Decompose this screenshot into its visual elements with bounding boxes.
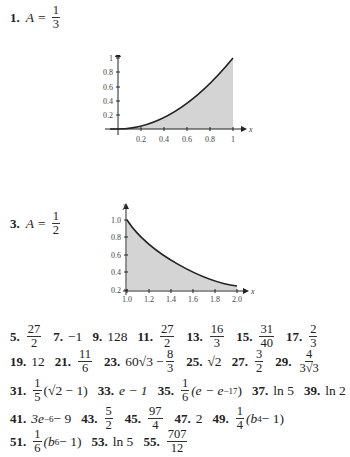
svg-text:1.6: 1.6 (188, 295, 198, 304)
svg-text:1.4: 1.4 (166, 295, 176, 304)
svg-text:0.6: 0.6 (103, 83, 113, 92)
graph-x-squared: 0.20.40.60.81 0.20.40.60.81 x (100, 55, 260, 185)
svg-text:x: x (250, 287, 255, 296)
svg-text:0.4: 0.4 (111, 268, 121, 277)
svg-text:0.2: 0.2 (103, 111, 113, 120)
svg-text:1: 1 (109, 55, 113, 63)
svg-text:x: x (248, 125, 253, 134)
answers-row-2: 19.12 21.116 23.60√3 −83 25.√2 27.32 29.… (10, 348, 332, 375)
fraction: 13 (52, 4, 60, 31)
svg-text:1.0: 1.0 (111, 216, 121, 225)
svg-text:0.4: 0.4 (103, 97, 113, 106)
fraction: 12 (52, 210, 60, 237)
problem-3-answer: 3. A = 12 (10, 210, 62, 237)
area-variable: A (26, 10, 34, 26)
svg-text:0.8: 0.8 (111, 233, 121, 242)
area-variable: A (26, 216, 34, 232)
svg-text:0.4: 0.4 (159, 135, 169, 144)
svg-text:2.0: 2.0 (232, 295, 242, 304)
svg-text:1.2: 1.2 (144, 295, 154, 304)
problem-number: 1. (10, 10, 20, 26)
svg-text:1.8: 1.8 (210, 295, 220, 304)
svg-text:1: 1 (231, 135, 235, 144)
svg-text:0.8: 0.8 (103, 68, 113, 77)
equals-sign: = (38, 10, 46, 26)
svg-text:0.6: 0.6 (182, 135, 192, 144)
svg-text:0.6: 0.6 (111, 251, 121, 260)
svg-text:y: y (122, 201, 127, 210)
problem-1-answer: 1. A = 13 (10, 4, 62, 31)
answers-row-1: 5.272 7.−1 9.128 11.272 13.163 15.3140 1… (10, 323, 329, 350)
svg-text:0.2: 0.2 (136, 135, 146, 144)
answers-row-3: 31.15(√2 − 1) 33.e − 1 35.16(e − e−17) 3… (10, 377, 350, 404)
graph-inverse-square: 1.01.21.41.61.82.0 0.20.40.60.81.0 y x (95, 200, 265, 305)
svg-text:0.2: 0.2 (111, 286, 121, 295)
svg-text:0.8: 0.8 (205, 135, 215, 144)
equals-sign: = (38, 216, 46, 232)
svg-text:1.0: 1.0 (122, 295, 132, 304)
problem-number: 3. (10, 216, 20, 232)
answers-row-5: 51.16(b6 − 1) 53.ln 5 55.70712 (10, 428, 199, 455)
